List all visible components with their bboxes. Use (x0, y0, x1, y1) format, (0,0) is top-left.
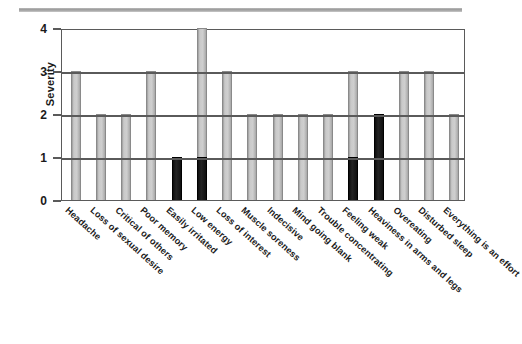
bar-2 (121, 114, 131, 200)
bar-9 (298, 114, 308, 200)
plot-area (61, 29, 465, 201)
gridline-3 (62, 72, 464, 73)
gridline-2 (62, 115, 464, 116)
bar-7 (247, 114, 257, 200)
bar-4 (172, 157, 182, 200)
bar-10 (323, 114, 333, 200)
bar-0 (71, 71, 81, 200)
y-tickmark-4 (53, 28, 61, 29)
y-tick-label-0: 0 (25, 195, 47, 207)
bar-12 (374, 114, 384, 200)
y-tickmark-2 (53, 114, 61, 115)
y-tick-label-3: 3 (25, 66, 47, 78)
bar-highlight-1 (348, 157, 358, 200)
y-tickmark-0 (53, 200, 61, 201)
top-rule-divider (19, 8, 462, 12)
y-tick-label-2: 2 (25, 109, 47, 121)
x-axis-label-layer: HeadacheLoss of sexual desireCritical of… (61, 201, 465, 344)
bar-3 (146, 71, 156, 200)
y-tickmark-3 (53, 71, 61, 72)
y-tick-label-4: 4 (25, 23, 47, 35)
bar-14 (424, 71, 434, 200)
bar-highlight-0 (197, 157, 207, 200)
y-tick-label-1: 1 (25, 152, 47, 164)
y-axis-title: Severity (44, 24, 56, 144)
gridline-1 (62, 158, 464, 159)
bar-8 (273, 114, 283, 200)
y-tickmark-1 (53, 157, 61, 158)
bar-1 (96, 114, 106, 200)
bar-13 (399, 71, 409, 200)
bar-15 (449, 114, 459, 200)
bar-6 (222, 71, 232, 200)
